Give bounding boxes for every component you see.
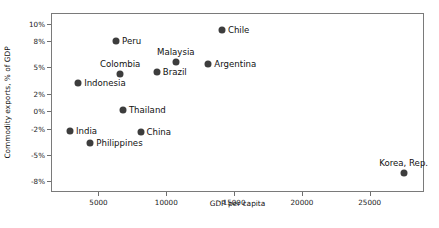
- y-tick-mark: [47, 181, 51, 182]
- x-tick-label: 5000: [89, 198, 107, 207]
- y-tick-label: 5%: [34, 63, 45, 72]
- x-tick-label: 25000: [358, 198, 381, 207]
- data-point-label: Indonesia: [84, 78, 126, 88]
- data-point-marker[interactable]: [218, 26, 225, 33]
- x-tick-label: 15000: [223, 198, 246, 207]
- y-axis-title: Commodity exports, % of GDP: [0, 13, 14, 192]
- y-tick-label: 2%: [34, 89, 45, 98]
- x-tick-label: 20000: [290, 198, 313, 207]
- data-point-label: Malaysia: [157, 47, 195, 57]
- data-point-marker[interactable]: [75, 80, 82, 87]
- y-tick-label: 0%: [34, 107, 45, 116]
- x-tick-label: 10000: [155, 198, 178, 207]
- y-tick-mark: [47, 94, 51, 95]
- y-tick-label: -5%: [31, 151, 45, 160]
- data-point-label: Argentina: [214, 59, 256, 69]
- data-point-label: Brazil: [163, 67, 187, 77]
- y-tick-label: 8%: [34, 37, 45, 46]
- data-point-label: Korea, Rep.: [379, 158, 428, 168]
- x-tick-mark: [98, 192, 99, 196]
- data-point-marker[interactable]: [113, 38, 120, 45]
- data-point-marker[interactable]: [153, 68, 160, 75]
- y-tick-mark: [47, 155, 51, 156]
- y-tick-label: -2%: [31, 124, 45, 133]
- data-point-label: Peru: [122, 36, 141, 46]
- data-point-label: China: [147, 127, 172, 137]
- data-point-marker[interactable]: [205, 60, 212, 67]
- data-point-marker[interactable]: [172, 59, 179, 66]
- scatter-chart-figure: Commodity exports, % of GDP GDP per capi…: [0, 0, 439, 228]
- x-tick-mark: [234, 192, 235, 196]
- data-point-marker[interactable]: [119, 106, 126, 113]
- y-tick-mark: [47, 24, 51, 25]
- x-tick-mark: [166, 192, 167, 196]
- data-point-label: India: [76, 126, 97, 136]
- data-point-label: Philippines: [96, 138, 142, 148]
- plot-area: 10%8%5%2%0%-2%-5%-8% 5000100001500020000…: [51, 13, 424, 192]
- data-point-marker[interactable]: [87, 139, 94, 146]
- x-tick-mark: [302, 192, 303, 196]
- y-tick-mark: [47, 41, 51, 42]
- y-axis-title-text: Commodity exports, % of GDP: [3, 46, 12, 158]
- data-point-marker[interactable]: [137, 129, 144, 136]
- data-point-marker[interactable]: [117, 71, 124, 78]
- data-point-label: Colombia: [100, 59, 140, 69]
- y-tick-label: 10%: [29, 19, 45, 28]
- y-tick-label: -8%: [31, 177, 45, 186]
- y-tick-mark: [47, 129, 51, 130]
- y-tick-mark: [47, 67, 51, 68]
- data-point-label: Thailand: [129, 105, 166, 115]
- data-point-label: Chile: [228, 25, 250, 35]
- y-tick-mark: [47, 111, 51, 112]
- x-tick-mark: [370, 192, 371, 196]
- data-point-marker[interactable]: [66, 128, 73, 135]
- data-point-marker[interactable]: [400, 169, 407, 176]
